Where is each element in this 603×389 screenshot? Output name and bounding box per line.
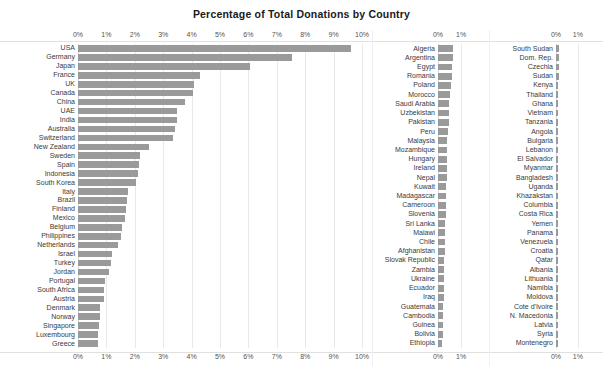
bar-row: Australia bbox=[78, 124, 362, 133]
x-tick-label: 3% bbox=[158, 31, 168, 38]
bar bbox=[438, 110, 449, 117]
category-label: Sweden bbox=[50, 152, 75, 160]
bar bbox=[78, 99, 185, 106]
category-label: Lebanon bbox=[526, 146, 553, 154]
bar bbox=[438, 285, 444, 292]
bar bbox=[78, 224, 122, 231]
bar-row: El Salvador bbox=[556, 155, 591, 164]
axis-bottom-middle: 0%1% bbox=[372, 352, 489, 364]
category-label: Hungary bbox=[409, 155, 435, 163]
bar bbox=[556, 91, 558, 98]
bar bbox=[556, 285, 558, 292]
category-label: New Zealand bbox=[34, 143, 75, 151]
bar bbox=[556, 312, 558, 319]
bar-row: South Korea bbox=[78, 178, 362, 187]
bar bbox=[438, 193, 446, 200]
bar-row: Pakistan bbox=[438, 118, 475, 127]
bar-row: Nepal bbox=[438, 173, 475, 182]
bar-row: Latvia bbox=[556, 320, 591, 329]
bar-row: Slovenia bbox=[438, 210, 475, 219]
bar-row: Uganda bbox=[556, 182, 591, 191]
bar bbox=[438, 137, 447, 144]
category-label: China bbox=[57, 98, 75, 106]
axis-top-middle: 0%1% bbox=[372, 30, 489, 42]
category-label: South Korea bbox=[36, 179, 75, 187]
x-tick-label: 6% bbox=[243, 353, 253, 360]
category-label: Netherlands bbox=[37, 241, 75, 249]
category-label: Dom. Rep. bbox=[520, 54, 553, 62]
bar-row: Ethiopia bbox=[438, 339, 475, 348]
x-tick-label: 7% bbox=[272, 353, 282, 360]
category-label: Kenya bbox=[533, 81, 553, 89]
bar bbox=[78, 322, 99, 329]
category-label: Thailand bbox=[526, 91, 553, 99]
bar bbox=[78, 81, 194, 88]
bar-row: Sweden bbox=[78, 151, 362, 160]
category-label: Ireland bbox=[414, 164, 435, 172]
category-label: Sudan bbox=[533, 72, 553, 80]
category-label: Canada bbox=[50, 89, 75, 97]
bar-row: Egypt bbox=[438, 62, 475, 71]
x-tick-label: 0% bbox=[551, 31, 561, 38]
bar bbox=[438, 257, 444, 264]
category-label: El Salvador bbox=[517, 155, 553, 163]
panel-divider bbox=[372, 30, 373, 366]
bar-row: Switzerland bbox=[78, 133, 362, 142]
category-label: Pakistan bbox=[408, 118, 435, 126]
category-label: Myanmar bbox=[524, 164, 553, 172]
bar bbox=[556, 229, 558, 236]
category-label: Jordan bbox=[54, 268, 75, 276]
category-label: Bangladesh bbox=[516, 174, 553, 182]
category-label: UK bbox=[65, 80, 75, 88]
bar-row: Argentina bbox=[438, 53, 475, 62]
bar bbox=[78, 179, 136, 186]
bar-row: Jordan bbox=[78, 268, 362, 277]
bar-row: Malawi bbox=[438, 228, 475, 237]
bar bbox=[438, 64, 452, 71]
category-label: Indonesia bbox=[45, 170, 75, 178]
bar bbox=[438, 73, 452, 80]
bar bbox=[438, 303, 443, 310]
bar-row: Germany bbox=[78, 53, 362, 62]
category-label: Sri Lanka bbox=[405, 220, 435, 228]
category-label: Uganda bbox=[528, 183, 553, 191]
bar bbox=[556, 322, 558, 329]
bar bbox=[78, 72, 200, 79]
chart-root: Percentage of Total Donations by Country… bbox=[0, 0, 603, 389]
category-label: Greece bbox=[52, 340, 75, 348]
bar bbox=[78, 278, 105, 285]
bar bbox=[78, 126, 175, 133]
category-label: Guatemala bbox=[401, 303, 435, 311]
bar bbox=[78, 260, 111, 267]
bar bbox=[556, 257, 558, 264]
x-tick-label: 1% bbox=[573, 353, 583, 360]
bar-row: Syria bbox=[556, 330, 591, 339]
category-label: Spain bbox=[57, 161, 75, 169]
bar-row: Tanzania bbox=[556, 118, 591, 127]
bar-row: Namibia bbox=[556, 284, 591, 293]
category-label: Latvia bbox=[534, 321, 553, 329]
category-label: Norway bbox=[51, 313, 75, 321]
bar bbox=[556, 64, 559, 71]
category-label: Czechia bbox=[528, 63, 553, 71]
bar-row: Malaysia bbox=[438, 136, 475, 145]
bar bbox=[78, 197, 127, 204]
bar-row: Mozambique bbox=[438, 145, 475, 154]
bar bbox=[78, 313, 100, 320]
bar-row: UK bbox=[78, 80, 362, 89]
category-label: Philippines bbox=[41, 232, 75, 240]
category-label: Germany bbox=[46, 53, 75, 61]
bar bbox=[556, 183, 558, 190]
bar-row: Indonesia bbox=[78, 169, 362, 178]
bar bbox=[438, 119, 449, 126]
bar-row: Chile bbox=[438, 237, 475, 246]
bar-row: Netherlands bbox=[78, 241, 362, 250]
axis-bottom-right: 0%1% bbox=[489, 352, 603, 364]
category-label: Egypt bbox=[417, 63, 435, 71]
bar-row: Portugal bbox=[78, 276, 362, 285]
category-label: Morocco bbox=[408, 91, 435, 99]
category-label: Cameroon bbox=[402, 201, 435, 209]
bar bbox=[556, 82, 558, 89]
bar-row: Ukraine bbox=[438, 274, 475, 283]
category-label: Slovenia bbox=[408, 210, 435, 218]
